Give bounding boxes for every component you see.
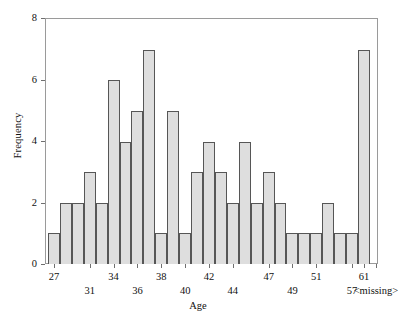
- x-tick-mark-40: [185, 264, 186, 268]
- y-tick-label-8: 8: [15, 13, 37, 23]
- x-tick-mark-49: [292, 264, 293, 268]
- bars-container: [45, 18, 378, 264]
- x-tick-label-42: 42: [204, 271, 215, 282]
- x-axis-title: Age: [0, 300, 396, 311]
- histogram-bar: [227, 203, 239, 264]
- histogram-bar: [72, 203, 84, 264]
- x-tick-label-47: 47: [263, 271, 274, 282]
- x-tick-mark-42: [209, 264, 210, 268]
- x-tick-mark-27: [54, 264, 55, 268]
- x-tick-label-44: 44: [228, 285, 239, 296]
- x-tick-mark-51: [316, 264, 317, 268]
- histogram-bar: [143, 50, 155, 264]
- histogram-bar: [191, 172, 203, 264]
- y-tick-label-0: 0: [15, 259, 37, 269]
- histogram-bar: [131, 111, 143, 264]
- x-tick-mark-34: [114, 264, 115, 268]
- x-tick-mark-61: [364, 264, 365, 268]
- histogram-bar: [48, 233, 60, 264]
- histogram-bar: [346, 233, 358, 264]
- histogram-bar: [155, 233, 167, 264]
- histogram-bar: [334, 233, 346, 264]
- histogram-bar: [358, 50, 370, 264]
- x-tick-label-34: 34: [108, 271, 119, 282]
- x-tick-label-40: 40: [180, 285, 191, 296]
- histogram-bar: [239, 142, 251, 265]
- x-tick-mark-57: [352, 264, 353, 268]
- x-tick-mark-47: [269, 264, 270, 268]
- histogram-bar: [120, 142, 132, 265]
- y-tick-mark-0: [41, 264, 45, 265]
- histogram-bar: [60, 203, 72, 264]
- y-tick-label-6: 6: [15, 75, 37, 85]
- x-tick-mark-36: [137, 264, 138, 268]
- histogram-bar: [263, 172, 275, 264]
- x-tick-mark-<missing>: [376, 264, 377, 268]
- histogram-bar: [96, 203, 108, 264]
- x-tick-mark-44: [233, 264, 234, 268]
- histogram-bar: [215, 172, 227, 264]
- histogram-bar: [322, 203, 334, 264]
- histogram-bar: [275, 203, 287, 264]
- x-tick-label-49: 49: [287, 285, 298, 296]
- histogram-bar: [251, 203, 263, 264]
- x-tick-label-missing: <missing>: [354, 285, 398, 296]
- histogram-bar: [298, 233, 310, 264]
- histogram-bar: [167, 111, 179, 264]
- histogram-bar: [286, 233, 298, 264]
- histogram-bar: [310, 233, 322, 264]
- histogram-bar: [179, 233, 191, 264]
- x-tick-mark-31: [90, 264, 91, 268]
- histogram-bar: [203, 142, 215, 265]
- y-tick-label-4: 4: [15, 136, 37, 146]
- histogram-bar: [84, 172, 96, 264]
- y-tick-label-2: 2: [15, 198, 37, 208]
- x-tick-label-51: 51: [311, 271, 322, 282]
- x-tick-label-61: 61: [359, 271, 370, 282]
- x-tick-label-36: 36: [132, 285, 143, 296]
- x-tick-label-27: 27: [49, 271, 60, 282]
- x-tick-mark-38: [161, 264, 162, 268]
- x-tick-label-31: 31: [84, 285, 95, 296]
- x-tick-label-38: 38: [156, 271, 167, 282]
- histogram-bar: [108, 80, 120, 264]
